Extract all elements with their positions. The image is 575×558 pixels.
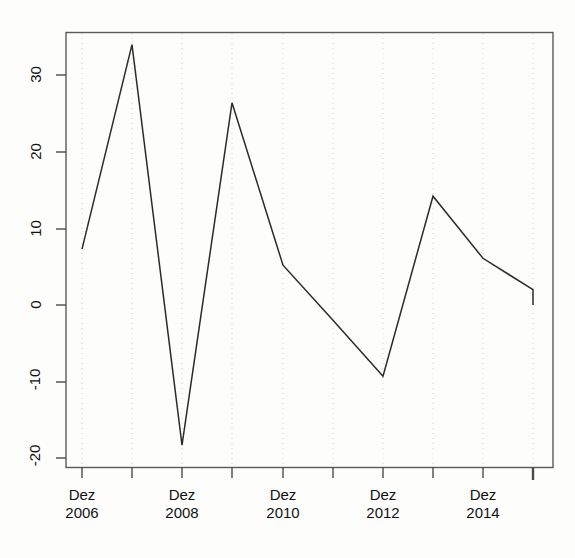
data-series-line: [82, 45, 533, 446]
x-axis-ticks: [82, 467, 533, 480]
chart-figure: 30 20 10 0 -10 -20 Dez 2006 Dez 2008 Dez…: [0, 0, 575, 558]
y-tick-label-neg20: -20: [18, 447, 52, 464]
x-tick-year: 2006: [47, 504, 117, 522]
x-tick-month: Dez: [248, 486, 318, 504]
y-tick-label-30: 30: [18, 66, 52, 83]
x-tick-year: 2014: [448, 504, 518, 522]
x-tick-label-dez-2014: Dez 2014: [448, 486, 518, 522]
y-tick-label-0: 0: [18, 296, 52, 313]
x-tick-label-dez-2008: Dez 2008: [147, 486, 217, 522]
y-tick-label-10: 10: [18, 220, 52, 237]
grid-vertical: [82, 33, 533, 467]
x-tick-month: Dez: [147, 486, 217, 504]
x-tick-label-dez-2010: Dez 2010: [248, 486, 318, 522]
x-tick-label-dez-2006: Dez 2006: [47, 486, 117, 522]
y-axis-ticks: [56, 75, 66, 458]
x-tick-month: Dez: [47, 486, 117, 504]
y-tick-label-neg10: -10: [18, 371, 52, 388]
x-tick-year: 2010: [248, 504, 318, 522]
y-tick-label-20: 20: [18, 143, 52, 160]
x-tick-year: 2008: [147, 504, 217, 522]
x-tick-month: Dez: [448, 486, 518, 504]
x-tick-label-dez-2012: Dez 2012: [348, 486, 418, 522]
plot-area: [0, 0, 575, 558]
x-tick-year: 2012: [348, 504, 418, 522]
x-tick-month: Dez: [348, 486, 418, 504]
